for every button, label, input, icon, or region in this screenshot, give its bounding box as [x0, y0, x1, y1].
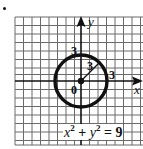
- x-intercept-label: 3: [109, 69, 115, 81]
- equation-equals: = 9: [104, 125, 122, 140]
- y-axis-label: y: [88, 15, 94, 28]
- x-axis-label: x: [134, 83, 140, 96]
- origin-label: 0: [71, 84, 77, 96]
- y-intercept-label: 3: [71, 45, 77, 57]
- equation-y-exponent: 2: [96, 123, 101, 133]
- equation-plus: +: [78, 125, 86, 140]
- circle-equation: x2 + y2 = 9: [63, 124, 123, 140]
- center-point: [78, 78, 84, 84]
- radius-label: 3: [87, 60, 93, 72]
- equation-x-exponent: 2: [70, 123, 75, 133]
